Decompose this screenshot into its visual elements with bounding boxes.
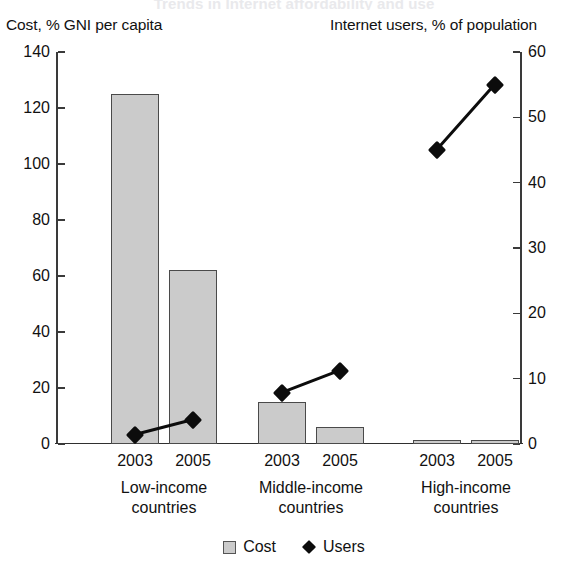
group-label-line1: High-income [421,479,511,496]
bar [471,440,519,444]
bar [258,402,306,444]
left-tick [58,51,65,53]
left-axis-line [56,52,58,444]
right-tick-label: 40 [528,175,574,191]
right-tick-label: 60 [528,44,574,60]
bar [316,427,364,444]
right-tick [513,247,520,249]
legend-item-cost: Cost [223,538,276,556]
bar [413,440,461,444]
group-label-line1: Low-income [121,479,207,496]
left-axis-title: Cost, % GNI per capita [6,16,162,34]
users-data-point [273,384,291,402]
right-tick-label: 30 [528,240,574,256]
left-tick-label: 120 [4,100,50,116]
category-label-group: 20032005Low-incomecountries20032005Middl… [0,452,588,532]
year-label: 2003 [105,452,165,470]
right-tick [513,313,520,315]
left-tick [58,219,65,221]
year-label: 2003 [407,452,467,470]
left-tick-label: 40 [4,324,50,340]
right-tick-label: 20 [528,305,574,321]
left-tick-label: 140 [4,44,50,60]
legend-label-cost: Cost [243,538,276,556]
chart-title: Trends in Internet affordability and use [0,0,588,10]
year-label: 2005 [310,452,370,470]
left-tick [58,107,65,109]
group-label-line2: countries [279,499,344,516]
chart-root: Trends in Internet affordability and use… [0,0,588,571]
group-label-line2: countries [434,499,499,516]
chart-legend: Cost Users [0,538,588,556]
group-label-line2: countries [132,499,197,516]
left-tick [58,331,65,333]
year-label: 2003 [252,452,312,470]
left-tick [58,443,65,445]
group-label-line1: Middle-income [259,479,363,496]
users-diamond-icon [302,540,316,554]
legend-item-users: Users [302,538,365,556]
left-tick [58,275,65,277]
right-axis-line [520,52,522,444]
left-tick-label: 100 [4,156,50,172]
year-label: 2005 [465,452,525,470]
legend-label-users: Users [323,538,365,556]
right-tick [513,182,520,184]
users-data-point [331,362,349,380]
right-tick [513,378,520,380]
plot-area: 020406080100120140 0102030405060 [56,52,522,444]
left-tick [58,163,65,165]
left-tick-label: 60 [4,268,50,284]
year-label: 2005 [163,452,223,470]
users-line-segment [436,84,497,152]
users-line-segment [281,369,340,394]
left-tick-label: 80 [4,212,50,228]
right-tick-label: 0 [528,436,574,452]
right-tick-label: 50 [528,109,574,125]
bar [111,94,159,444]
left-tick-label: 20 [4,380,50,396]
cost-swatch-icon [223,541,236,554]
group-label: High-incomecountries [371,478,561,518]
left-tick [58,387,65,389]
right-axis-title: Internet users, % of population [330,16,537,34]
left-tick-label: 0 [4,436,50,452]
right-tick [513,51,520,53]
right-tick-label: 10 [528,371,574,387]
right-tick [513,117,520,119]
